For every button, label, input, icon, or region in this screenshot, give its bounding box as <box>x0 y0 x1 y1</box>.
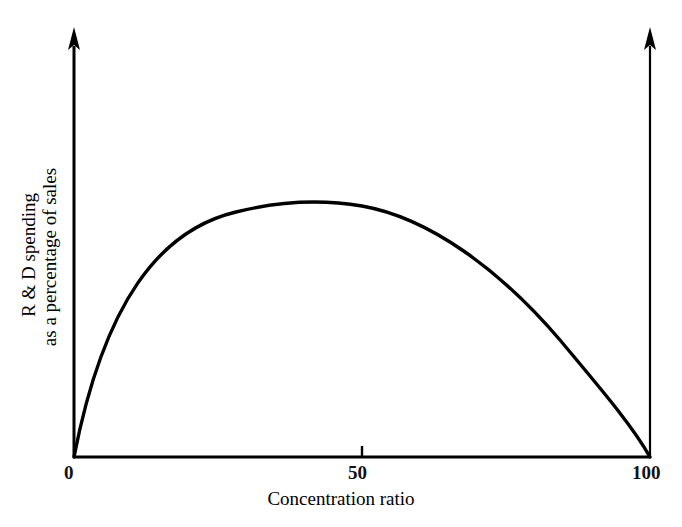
x-axis-title: Concentration ratio <box>0 488 682 510</box>
x-tick-label-50: 50 <box>348 463 367 482</box>
chart-canvas <box>0 0 682 527</box>
data-curve-rd-spending <box>74 202 650 457</box>
chart-figure: 0 50 100 Concentration ratio R & D spend… <box>0 0 682 527</box>
x-tick-label-100: 100 <box>632 463 661 482</box>
y-axis-title-line-2: as a percentage of sales <box>40 127 64 387</box>
y-axis-title: R & D spending as a percentage of sales <box>0 0 72 527</box>
